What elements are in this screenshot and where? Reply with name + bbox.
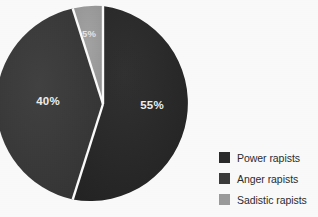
- legend-swatch-anger: [219, 173, 230, 184]
- legend-item-sadistic: Sadistic rapists: [219, 190, 318, 209]
- pie-label-sadistic: 5%: [82, 28, 96, 39]
- legend-label-power: Power rapists: [237, 152, 300, 164]
- pie-chart-figure: 55% 40% 5% Power rapists Anger rapists S…: [0, 0, 318, 217]
- legend-label-sadistic: Sadistic rapists: [237, 194, 307, 206]
- legend: Power rapists Anger rapists Sadistic rap…: [219, 148, 318, 211]
- legend-swatch-sadistic: [219, 194, 230, 205]
- pie-chart-plot: 55% 40% 5%: [0, 0, 210, 217]
- legend-label-anger: Anger rapists: [237, 173, 298, 185]
- legend-item-anger: Anger rapists: [219, 169, 318, 188]
- pie-svg: 55% 40% 5%: [0, 0, 210, 217]
- legend-item-power: Power rapists: [219, 148, 318, 167]
- pie-label-anger: 40%: [36, 95, 60, 107]
- legend-swatch-power: [219, 152, 230, 163]
- pie-label-power: 55%: [140, 99, 164, 111]
